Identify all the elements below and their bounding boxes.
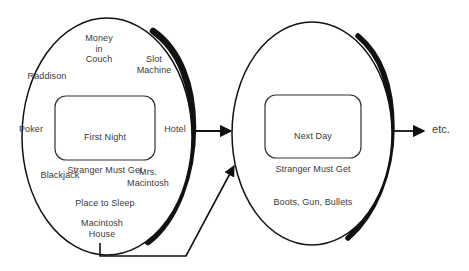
satellite-label-macintosh-house: MacintoshHouse [66,218,138,239]
stage-2-core-text: Next Day Stranger Must Get Boots, Gun, B… [266,109,360,230]
satellite-label-money-in-couch: MoneyinCouch [68,33,130,65]
satellite-label-blackjack: Blackjack [29,170,91,181]
satellite-label-slot-machine: SlotMachine [125,54,183,75]
stage-1-core-line-3: Place to Sleep [57,198,153,209]
diagram-canvas: First Night Stranger Must Get Place to S… [0,0,469,271]
stage-2-core-line-1: Next Day [266,131,360,142]
stage-1-core-line-1: First Night [57,132,153,143]
stage-2-core-line-2: Stranger Must Get [266,164,360,175]
satellite-label-mrs-macintosh: Mrs.Macintosh [114,167,182,188]
continuation-label-etc: etc. [432,124,466,135]
stage-2-core-line-3: Boots, Gun, Bullets [266,197,360,208]
satellite-label-raddison: Raddison [16,71,78,82]
satellite-label-hotel: Hotel [158,124,192,135]
satellite-label-poker: Poker [10,124,52,135]
